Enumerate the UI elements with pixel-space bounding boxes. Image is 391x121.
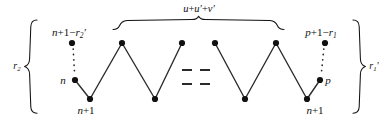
vertex-peak-1	[119, 40, 125, 46]
vertex-left-n-plus-1	[87, 96, 93, 102]
vertex-dots	[69, 40, 328, 102]
zigzag-path-diagram: u+u′+v′ r2 r1′ n+1−r2′ p+1−r1 n n+1 p n+…	[0, 0, 391, 121]
vertex-top-right-outer	[322, 40, 328, 46]
vertex-right-p	[317, 77, 323, 83]
ellipsis-dashes	[182, 70, 210, 84]
left-brace-label: r2	[13, 61, 20, 72]
left-n-label: n	[60, 75, 66, 86]
vertex-peak-2	[179, 40, 185, 46]
vertex-top-left-outer	[69, 40, 75, 46]
left-n-plus-1-label: n+1	[77, 105, 94, 116]
top-left-vertex-label: n+1−r2′	[52, 27, 86, 39]
right-brace-label: r1′	[369, 61, 379, 72]
edge-peak3-to-valley2	[215, 43, 245, 99]
zigzag-edges	[75, 43, 320, 99]
vertex-peak-3	[212, 40, 218, 46]
vertex-right-n-plus-1	[304, 96, 310, 102]
edge-peak1-to-valley1	[122, 43, 155, 99]
left-brace	[25, 20, 37, 113]
vertex-valley-2	[242, 96, 248, 102]
vertex-valley-1	[152, 96, 158, 102]
vertex-left-n	[72, 77, 78, 83]
top-brace	[113, 16, 284, 29]
top-brace-label: u+u′+v′	[183, 4, 215, 15]
dotted-left-segment	[73, 49, 74, 75]
vertex-peak-4	[273, 40, 279, 46]
edge-n1-to-peak1	[90, 43, 122, 99]
edge-left-n-to-n1	[75, 80, 90, 99]
edge-right-n1-to-p	[307, 80, 320, 99]
diagram-canvas	[0, 0, 391, 121]
edge-valley1-to-peak2	[155, 43, 182, 99]
top-right-vertex-label: p+1−r1	[305, 27, 336, 39]
right-brace	[353, 20, 365, 113]
right-n-plus-1-label: n+1	[306, 105, 323, 116]
edge-valley2-to-peak4	[245, 43, 276, 99]
right-p-label: p	[325, 75, 331, 86]
edge-peak4-to-right-n1	[276, 43, 307, 99]
dotted-right-segment	[321, 49, 324, 75]
